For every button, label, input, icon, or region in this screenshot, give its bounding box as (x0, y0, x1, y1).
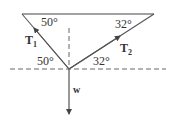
angle-bottom-right: 32° (93, 54, 110, 68)
angle-bottom-left: 50° (37, 54, 54, 68)
w-label: w (73, 84, 81, 95)
angle-top-right: 32° (115, 17, 132, 31)
angle-top-left: 50° (41, 15, 58, 29)
t2-label: T2 (120, 41, 132, 57)
force-diagram: 50° 32° 50° 32° T1 T2 w (0, 0, 176, 121)
t1-label: T1 (25, 33, 37, 49)
